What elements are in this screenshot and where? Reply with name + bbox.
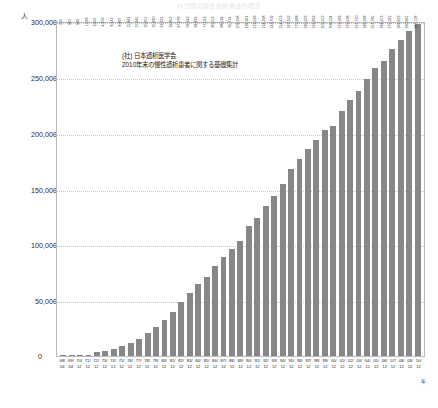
x-axis-tick-label: 75/12 xyxy=(117,358,125,386)
bar: 39,852 xyxy=(170,312,176,357)
bar: 248,166 xyxy=(364,79,370,356)
x-axis-unit-label: 年 xyxy=(421,377,426,384)
bar: 123,926 xyxy=(254,218,260,356)
x-axis-tick-label: 95/12 xyxy=(287,358,295,386)
bar-value-label: 167,192 xyxy=(287,16,291,29)
bar-value-label: 123,926 xyxy=(253,16,257,29)
y-axis-tick-label: 250,000 xyxy=(9,74,57,83)
x-axis-tick-label: 06/12 xyxy=(380,358,388,386)
bar-item: 15,645 xyxy=(135,23,143,356)
bar: 154,413 xyxy=(280,184,286,356)
bar-value-label: 1,026 xyxy=(85,18,89,27)
bar-item: 248,166 xyxy=(363,23,371,356)
bar-item: 143,709 xyxy=(270,23,278,356)
bar-item: 264,473 xyxy=(380,23,388,356)
bar: 56,342 xyxy=(187,293,193,356)
bar: 6,143 xyxy=(111,349,117,356)
y-axis-tick-label: 300,000 xyxy=(9,18,57,27)
bar: 11,843 xyxy=(128,343,134,356)
x-axis-tick-label: 97/12 xyxy=(304,358,312,386)
bar: 20,651 xyxy=(145,333,151,356)
bar-value-label: 297,126 xyxy=(414,16,418,29)
bar: 32,331 xyxy=(162,320,168,356)
bar-item: 134,298 xyxy=(262,23,270,356)
bar-value-label: 3,631 xyxy=(93,18,97,27)
bar-item: 290,661 xyxy=(405,23,413,356)
bar-item: 47,978 xyxy=(177,23,185,356)
bar-value-label: 143,709 xyxy=(270,16,274,29)
x-axis-tick-label: 08/12 xyxy=(397,358,405,386)
bar-value-label: 103,296 xyxy=(236,16,240,29)
bar: 71,013 xyxy=(204,277,210,356)
bar: 257,765 xyxy=(372,68,378,356)
bar-item: 1,026 xyxy=(84,23,92,356)
bar: 297,126 xyxy=(415,24,421,356)
bar-item: 275,242 xyxy=(388,23,396,356)
x-axis-tick-label: 87/12 xyxy=(219,358,227,386)
bar-value-label: 282,622 xyxy=(397,16,401,29)
bar-value-label: 20,651 xyxy=(144,17,148,28)
x-axis-tick-label: 07/12 xyxy=(389,358,397,386)
bar: 47,978 xyxy=(178,302,184,356)
bar-item: 71,013 xyxy=(202,23,210,356)
x-axis-tick-label: 78/12 xyxy=(143,358,151,386)
bar-value-label: 185,322 xyxy=(304,16,308,29)
bar-value-label: 6,143 xyxy=(110,18,114,27)
bar: 901 xyxy=(69,355,75,356)
bar-item: 88,534 xyxy=(219,23,227,356)
bar-item: 116,303 xyxy=(245,23,253,356)
x-axis-tick-label: 69/04 xyxy=(66,358,74,386)
x-axis-tick-label: 73/12 xyxy=(100,358,108,386)
bar-item: 229,538 xyxy=(346,23,354,356)
y-axis-zero-label: 0 xyxy=(38,352,42,361)
x-axis-tick-label: 04/12 xyxy=(363,358,371,386)
chart-figure: わが国の慢性透析療法の現況 人 300,000250,000200,000150… xyxy=(0,0,438,408)
bar-item: 56,342 xyxy=(186,23,194,356)
bar: 175,988 xyxy=(297,159,303,356)
bar-item: 11,843 xyxy=(127,23,135,356)
bar-item: 39,852 xyxy=(169,23,177,356)
bar: 215 xyxy=(60,355,66,356)
bar: 8,667 xyxy=(119,346,125,356)
bar-item: 185,322 xyxy=(304,23,312,356)
bar: 949 xyxy=(77,355,83,356)
bar: 185,322 xyxy=(305,149,311,356)
x-axis-tick-label: 98/12 xyxy=(313,358,321,386)
x-axis-tick-label: 89/12 xyxy=(236,358,244,386)
chart-top-title: わが国の慢性透析療法の現況 xyxy=(0,1,438,10)
bar-item: 193,832 xyxy=(312,23,320,356)
bar: 15,645 xyxy=(136,339,142,356)
bar-item: 4,193 xyxy=(101,23,109,356)
bar: 25,820 xyxy=(153,327,159,356)
bar-value-label: 95,714 xyxy=(228,17,232,28)
bar-item: 297,126 xyxy=(413,23,421,356)
bar-value-label: 237,710 xyxy=(355,16,359,29)
x-axis-tick-label: 91/12 xyxy=(253,358,261,386)
x-axis-tick-label: 84/12 xyxy=(194,358,202,386)
bar-item: 80,553 xyxy=(211,23,219,356)
bar-value-label: 47,978 xyxy=(177,17,181,28)
bar-value-label: 134,298 xyxy=(262,16,266,29)
x-axis-tick-label: 93/12 xyxy=(270,358,278,386)
bar-item: 64,823 xyxy=(194,23,202,356)
bar-item: 257,765 xyxy=(371,23,379,356)
bar-value-label: 8,667 xyxy=(118,18,122,27)
plot-area: (社) 日本透析医学会 2010年末の慢性透析患者に関する基礎集計 215901… xyxy=(56,22,425,357)
bar-value-label: 290,661 xyxy=(405,16,409,29)
bar-value-label: 4,193 xyxy=(101,18,105,27)
bar-value-label: 901 xyxy=(68,19,72,25)
y-axis-tick-label: 200,000 xyxy=(9,130,57,139)
bar-value-label: 25,820 xyxy=(152,17,156,28)
bar-item: 175,988 xyxy=(295,23,303,356)
x-axis-tick-label: 90/12 xyxy=(245,358,253,386)
bar-item: 206,134 xyxy=(329,23,337,356)
bar: 95,714 xyxy=(229,249,235,356)
bar: 80,553 xyxy=(212,266,218,356)
bar-item: 123,926 xyxy=(253,23,261,356)
x-axis-tick-label: 81/12 xyxy=(168,358,176,386)
bar: 1,026 xyxy=(86,355,92,356)
y-axis-tick-label: 150,000 xyxy=(9,186,57,195)
bar: 290,661 xyxy=(406,31,412,356)
x-axis-tick-label: 70/12 xyxy=(75,358,83,386)
bar: 134,298 xyxy=(263,206,269,356)
